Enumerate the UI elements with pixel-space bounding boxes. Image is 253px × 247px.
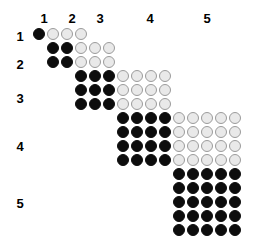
matrix-cell-empty (159, 84, 171, 96)
matrix-cell-empty (215, 140, 227, 152)
matrix-cell-filled (117, 154, 129, 166)
matrix-cell-filled (201, 210, 213, 222)
matrix-cell-empty (117, 84, 129, 96)
matrix-cell-empty (173, 126, 185, 138)
matrix-cell-filled (229, 224, 241, 236)
matrix-cell-filled (117, 140, 129, 152)
matrix-cell-empty (89, 56, 101, 68)
matrix-cell-filled (173, 224, 185, 236)
matrix-cell-filled (229, 182, 241, 194)
row-header-5: 5 (13, 197, 27, 211)
row-header-1: 1 (13, 30, 27, 44)
column-header-2: 2 (65, 12, 79, 26)
matrix-cell-empty (89, 42, 101, 54)
column-header-1: 1 (37, 12, 51, 26)
matrix-cell-empty (117, 70, 129, 82)
matrix-cell-filled (117, 126, 129, 138)
matrix-cell-empty (131, 84, 143, 96)
matrix-cell-empty (229, 154, 241, 166)
matrix-cell-filled (47, 56, 59, 68)
matrix-cell-empty (159, 70, 171, 82)
matrix-cell-empty (61, 28, 73, 40)
matrix-cell-filled (215, 224, 227, 236)
matrix-cell-filled (159, 140, 171, 152)
row-header-4: 4 (13, 140, 27, 154)
matrix-cell-empty (173, 154, 185, 166)
matrix-cell-empty (131, 70, 143, 82)
matrix-cell-filled (173, 182, 185, 194)
matrix-cell-empty (145, 98, 157, 110)
matrix-cell-filled (159, 126, 171, 138)
matrix-cell-filled (131, 140, 143, 152)
matrix-cell-filled (187, 224, 199, 236)
matrix-cell-filled (117, 112, 129, 124)
matrix-cell-filled (103, 84, 115, 96)
matrix-cell-empty (47, 28, 59, 40)
matrix-cell-filled (187, 182, 199, 194)
matrix-cell-empty (201, 154, 213, 166)
matrix-cell-empty (215, 112, 227, 124)
matrix-cell-empty (145, 84, 157, 96)
row-header-3: 3 (13, 92, 27, 106)
column-header-5: 5 (200, 12, 214, 26)
matrix-cell-filled (229, 168, 241, 180)
matrix-cell-empty (215, 126, 227, 138)
matrix-cell-filled (215, 210, 227, 222)
matrix-cell-filled (131, 154, 143, 166)
matrix-cell-filled (229, 196, 241, 208)
matrix-cell-empty (117, 98, 129, 110)
block-diagonal-matrix-figure: 1234512345 (0, 0, 253, 247)
matrix-cell-filled (173, 168, 185, 180)
matrix-cell-filled (61, 56, 73, 68)
matrix-cell-filled (187, 168, 199, 180)
matrix-cell-empty (201, 140, 213, 152)
matrix-cell-filled (103, 70, 115, 82)
matrix-cell-filled (173, 210, 185, 222)
matrix-cell-filled (89, 70, 101, 82)
matrix-cell-filled (145, 126, 157, 138)
matrix-cell-filled (215, 196, 227, 208)
matrix-cell-empty (75, 28, 87, 40)
column-header-4: 4 (143, 12, 157, 26)
matrix-cell-filled (131, 126, 143, 138)
matrix-cell-empty (145, 70, 157, 82)
matrix-cell-filled (75, 84, 87, 96)
matrix-cell-filled (75, 98, 87, 110)
matrix-cell-empty (201, 126, 213, 138)
matrix-cell-filled (215, 182, 227, 194)
matrix-cell-filled (33, 28, 45, 40)
matrix-cell-filled (187, 210, 199, 222)
matrix-cell-empty (103, 56, 115, 68)
matrix-cell-filled (159, 154, 171, 166)
matrix-cell-empty (229, 112, 241, 124)
matrix-cell-filled (103, 98, 115, 110)
matrix-cell-empty (173, 112, 185, 124)
matrix-cell-filled (145, 140, 157, 152)
matrix-cell-empty (201, 112, 213, 124)
matrix-cell-empty (229, 126, 241, 138)
matrix-cell-empty (187, 112, 199, 124)
matrix-cell-filled (201, 168, 213, 180)
matrix-cell-empty (173, 140, 185, 152)
matrix-cell-filled (145, 154, 157, 166)
matrix-cell-empty (103, 42, 115, 54)
matrix-cell-filled (47, 42, 59, 54)
matrix-cell-filled (229, 210, 241, 222)
row-header-2: 2 (13, 58, 27, 72)
matrix-cell-filled (173, 196, 185, 208)
matrix-cell-empty (229, 140, 241, 152)
matrix-cell-empty (131, 98, 143, 110)
matrix-cell-filled (201, 182, 213, 194)
matrix-cell-filled (159, 112, 171, 124)
matrix-cell-empty (75, 42, 87, 54)
matrix-cell-empty (187, 126, 199, 138)
matrix-cell-filled (89, 98, 101, 110)
matrix-cell-empty (187, 154, 199, 166)
matrix-cell-empty (215, 154, 227, 166)
matrix-cell-filled (61, 42, 73, 54)
matrix-cell-filled (131, 112, 143, 124)
matrix-cell-filled (75, 70, 87, 82)
column-header-3: 3 (93, 12, 107, 26)
matrix-cell-filled (89, 84, 101, 96)
matrix-cell-empty (187, 140, 199, 152)
